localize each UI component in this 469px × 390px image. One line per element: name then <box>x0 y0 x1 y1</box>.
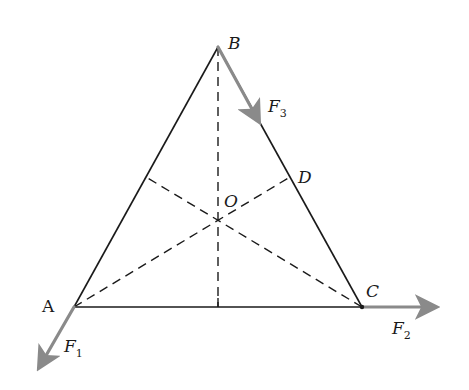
vertex-dots <box>360 305 364 309</box>
point-c-dot <box>360 305 364 309</box>
median-a <box>74 177 290 307</box>
label-b: B <box>227 33 241 53</box>
median-c <box>146 177 362 307</box>
label-a: A <box>41 296 55 316</box>
label-f1: F1 <box>63 336 83 360</box>
label-d: D <box>297 167 312 187</box>
label-f2: F2 <box>391 318 411 342</box>
label-o: O <box>224 191 238 211</box>
label-f2-sub: 2 <box>404 329 411 342</box>
force-f3-arrow <box>218 47 258 120</box>
label-f3: F3 <box>267 96 287 120</box>
label-c: C <box>366 281 379 301</box>
medians <box>74 47 362 307</box>
label-f3-sub: 3 <box>280 107 287 120</box>
label-f1-sub: 1 <box>76 347 83 360</box>
triangle-force-diagram: A B C D O F1 F2 F3 <box>0 0 469 390</box>
side-ab <box>74 47 218 307</box>
